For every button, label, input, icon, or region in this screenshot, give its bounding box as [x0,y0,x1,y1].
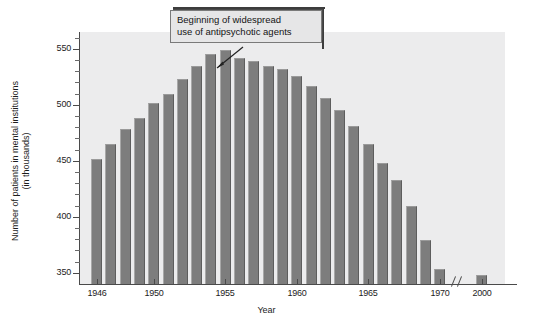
y-axis-minor-tick [75,38,80,39]
x-axis-tick-label: 1965 [348,288,388,298]
y-axis-tick-label: 400 [45,211,71,221]
y-axis-tick-label: 500 [45,99,71,109]
y-axis-minor-tick [75,194,80,195]
y-axis-minor-tick [75,127,80,128]
bar [320,98,331,284]
bar [220,50,231,284]
bar [391,180,402,284]
callout-shadow-top [173,7,325,9]
y-axis-title-line-2: (in thousands) [21,132,31,189]
y-axis-minor-tick [75,250,80,251]
y-axis-minor-tick [75,138,80,139]
y-axis-line [79,32,80,285]
callout-shadow-right [322,7,324,49]
annotation-callout: Beginning of widespread use of antipsych… [170,10,322,43]
bar [120,129,131,284]
y-axis-minor-tick [75,116,80,117]
bar [248,61,259,284]
y-axis-minor-tick [75,82,80,83]
x-axis-tick [225,279,226,285]
y-axis-tick-label: 550 [45,43,71,53]
x-axis-tick [154,279,155,285]
x-axis-tick-label: 1955 [205,288,245,298]
y-axis-minor-tick [75,94,80,95]
y-axis-major-tick [73,273,80,274]
annotation-line-2: use of antipsychotic agents [177,26,315,38]
bar [291,76,302,284]
bar [334,110,345,284]
bar [277,69,288,284]
y-axis-major-tick [73,161,80,162]
x-axis-tick-label: 1960 [277,288,317,298]
plot-area [80,32,505,284]
chart-figure: 350400450500550 Number of patients in me… [0,0,533,329]
x-axis-tick [97,279,98,285]
bar [91,159,102,284]
bar [377,163,388,284]
x-axis-tick [440,279,441,285]
y-axis-major-tick [73,217,80,218]
y-axis-tick-label: 350 [45,267,71,277]
bar [191,66,202,284]
axis-break-marker [450,276,466,288]
bar [134,118,145,284]
y-axis-minor-tick [75,60,80,61]
y-axis-minor-tick [75,262,80,263]
annotation-line-1: Beginning of widespread [177,14,315,26]
y-axis-minor-tick [75,172,80,173]
x-axis-tick [368,279,369,285]
y-axis-title-line-1: Number of patients in mental institution… [10,81,20,241]
bar [420,240,431,284]
bar [163,94,174,284]
y-axis-minor-tick [75,239,80,240]
x-axis-tick [482,279,483,285]
x-axis-title: Year [0,305,533,315]
y-axis-minor-tick [75,206,80,207]
y-axis-tick-label: 450 [45,155,71,165]
bar [363,144,374,284]
bar [348,126,359,284]
bar [234,58,245,284]
x-axis-tick-label: 1970 [420,288,460,298]
bar [205,54,216,284]
y-axis-major-tick [73,105,80,106]
y-axis-minor-tick [75,183,80,184]
y-axis-minor-tick [75,71,80,72]
bar [105,144,116,284]
x-axis-tick-label: 1946 [77,288,117,298]
bar [148,103,159,284]
y-axis-major-tick [73,49,80,50]
x-axis-tick [297,279,298,285]
bar [263,66,274,284]
y-axis-minor-tick [75,228,80,229]
bar [406,206,417,284]
x-axis-tick-label: 2000 [462,288,502,298]
x-axis-tick-label: 1950 [134,288,174,298]
bar [306,86,317,284]
y-axis-title: Number of patients in mental institution… [10,61,32,261]
bar [177,79,188,284]
annotation-arrow-icon [210,46,246,72]
bar-series [80,32,505,284]
y-axis-tick-labels: 350400450500550 [43,0,71,329]
y-axis-minor-tick [75,150,80,151]
